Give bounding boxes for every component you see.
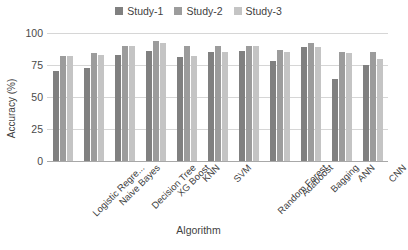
legend-swatch-icon: [234, 7, 242, 15]
x-axis-title: Algorithm: [0, 224, 397, 236]
y-axis-tick-label: 100: [3, 28, 43, 39]
y-axis-tick-label: 50: [3, 92, 43, 103]
plot-area: [47, 33, 388, 161]
x-axis-tick-label: ANN: [354, 162, 376, 184]
bar-group: [84, 33, 104, 161]
bar: [222, 52, 228, 161]
bar: [115, 55, 121, 161]
bar-groups: [47, 33, 388, 161]
bar: [67, 56, 73, 161]
bar: [377, 59, 383, 161]
legend-entry-study-1: Study-1: [115, 6, 163, 17]
bar-group: [363, 33, 383, 161]
bar-group: [177, 33, 197, 161]
x-axis-tick-label: CNN: [386, 162, 408, 184]
legend-label: Study-3: [246, 6, 282, 17]
legend-entry-study-3: Study-3: [234, 6, 282, 17]
bar: [146, 51, 152, 161]
bar: [253, 46, 259, 161]
y-axis-ticks: Accuracy (%) 0255075100: [0, 33, 43, 161]
bar: [160, 43, 166, 161]
bar-group: [53, 33, 73, 161]
bar-group: [301, 33, 321, 161]
bar: [208, 52, 214, 161]
bar: [122, 46, 128, 161]
bar: [332, 79, 338, 161]
bar: [315, 47, 321, 161]
bar-group: [270, 33, 290, 161]
bar: [191, 56, 197, 161]
bar: [339, 52, 345, 161]
bar: [177, 57, 183, 161]
bar: [346, 53, 352, 161]
legend-label: Study-2: [186, 6, 222, 17]
legend-swatch-icon: [115, 7, 123, 15]
bar: [129, 46, 135, 161]
bar: [53, 71, 59, 161]
bar: [277, 50, 283, 161]
bar: [84, 68, 90, 161]
y-axis-title: Accuracy (%): [6, 67, 17, 151]
bar-group: [332, 33, 352, 161]
bar: [363, 65, 369, 161]
bar: [215, 46, 221, 161]
bar: [270, 61, 276, 161]
bar: [284, 52, 290, 161]
y-axis-tick-label: 0: [3, 156, 43, 167]
bar: [153, 41, 159, 161]
y-axis-tick-label: 75: [3, 60, 43, 71]
legend-swatch-icon: [174, 7, 182, 15]
bar: [308, 43, 314, 161]
bar-group: [146, 33, 166, 161]
bar: [184, 46, 190, 161]
y-axis-tick-label: 25: [3, 124, 43, 135]
x-axis-labels: Logistic Regre...Naive BayesDecision Tre…: [47, 162, 388, 218]
chart-legend: Study-1Study-2Study-3: [0, 4, 397, 18]
bar: [370, 52, 376, 161]
bar: [91, 53, 97, 161]
bar: [246, 46, 252, 161]
bar-group: [115, 33, 135, 161]
bar: [239, 51, 245, 161]
bar-group: [208, 33, 228, 161]
bar: [301, 47, 307, 161]
legend-label: Study-1: [127, 6, 163, 17]
bar: [98, 55, 104, 161]
legend-entry-study-2: Study-2: [174, 6, 222, 17]
bar-group: [239, 33, 259, 161]
x-axis-tick-label: SVM: [231, 162, 253, 184]
bar: [60, 56, 66, 161]
